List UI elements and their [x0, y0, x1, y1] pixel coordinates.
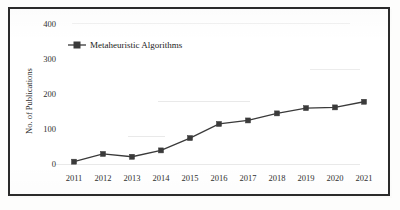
x-tick-label: 2018 — [269, 173, 286, 183]
y-tick-label: 200 — [43, 89, 56, 99]
data-point-marker — [130, 154, 135, 159]
y-tick-label: 100 — [43, 124, 56, 134]
y-axis-title: No. of Publications — [24, 68, 34, 134]
data-point-marker — [304, 106, 309, 111]
x-tick-label: 2011 — [66, 173, 83, 183]
data-point-marker — [246, 118, 251, 123]
x-tick-label: 2013 — [124, 173, 141, 183]
data-point-marker — [72, 159, 77, 164]
y-tick-label: 400 — [43, 19, 56, 29]
series-markers-metaheuristic-algorithms — [72, 99, 367, 164]
x-tick-label: 2017 — [240, 173, 257, 183]
x-tick-label: 2016 — [211, 173, 228, 183]
figure-border-frame: 400 300 200 100 0 No. of Publications 20… — [8, 7, 390, 196]
x-tick-label: 2020 — [327, 173, 344, 183]
series-line-metaheuristic-algorithms — [74, 102, 364, 162]
publications-line-chart: 400 300 200 100 0 No. of Publications 20… — [10, 9, 392, 198]
data-point-marker — [159, 148, 164, 153]
x-tick-label: 2015 — [182, 173, 199, 183]
legend-item-label: Metaheuristic Algorithms — [90, 40, 183, 50]
x-tick-label: 2014 — [153, 173, 171, 183]
x-tick-label: 2019 — [298, 173, 315, 183]
x-axis-ticks: 2011 2012 2013 2014 2015 2016 2017 2018 … — [66, 173, 373, 183]
chart-legend: Metaheuristic Algorithms — [68, 40, 183, 50]
y-tick-label: 0 — [52, 159, 56, 169]
chart-plot-area: 400 300 200 100 0 No. of Publications 20… — [10, 9, 392, 198]
data-point-marker — [188, 136, 193, 141]
data-point-marker — [333, 105, 338, 110]
x-tick-label: 2021 — [356, 173, 373, 183]
y-tick-label: 300 — [43, 54, 56, 64]
x-tick-label: 2012 — [95, 173, 112, 183]
data-point-marker — [101, 151, 106, 156]
data-point-marker — [362, 99, 367, 104]
data-point-marker — [275, 111, 280, 116]
y-axis-ticks: 400 300 200 100 0 — [43, 19, 56, 169]
figure-page: 400 300 200 100 0 No. of Publications 20… — [0, 0, 400, 210]
square-marker-icon — [74, 42, 81, 49]
data-point-marker — [217, 121, 222, 126]
